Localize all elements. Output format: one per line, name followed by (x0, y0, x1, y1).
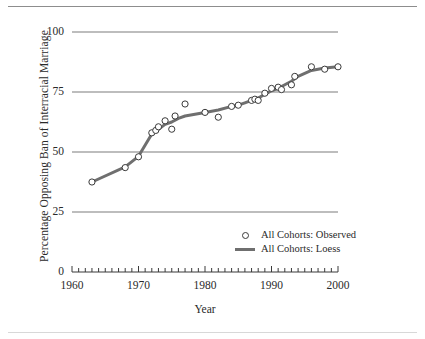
x-tick-label-2000: 2000 (316, 279, 360, 291)
figure-container: Percentage Opposing Ban of Interracial M… (0, 0, 425, 339)
y-tick-label-50: 50 (30, 146, 64, 157)
line-swatch-icon (232, 248, 258, 251)
gridlines-group (72, 32, 338, 212)
legend-label-loess: All Cohorts: Loess (258, 242, 340, 256)
observed-series-markers (89, 64, 341, 185)
x-tick-label-1990: 1990 (250, 279, 294, 291)
legend-label-observed: All Cohorts: Observed (258, 228, 356, 242)
x-axis-group (72, 266, 338, 272)
legend-item-observed: All Cohorts: Observed (232, 228, 356, 242)
y-tick-label-75: 75 (30, 86, 64, 97)
y-tick-label-0: 0 (30, 266, 64, 277)
x-tick-label-1970: 1970 (117, 279, 161, 291)
chart-legend: All Cohorts: Observed All Cohorts: Loess (232, 228, 356, 256)
legend-item-loess: All Cohorts: Loess (232, 242, 356, 256)
loess-series-line (92, 67, 338, 182)
y-tick-label-25: 25 (30, 206, 64, 217)
x-tick-label-1980: 1980 (183, 279, 227, 291)
open-circle-marker-icon (232, 232, 258, 239)
y-tick-label-100: 100 (30, 26, 64, 37)
x-tick-label-1960: 1960 (50, 279, 94, 291)
